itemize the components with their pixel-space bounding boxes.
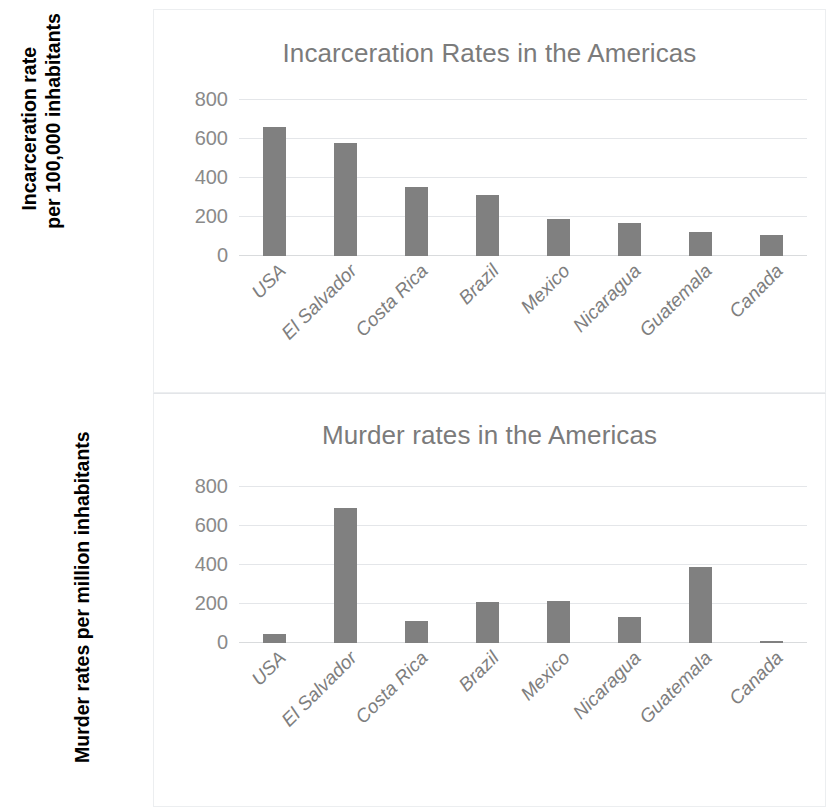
bar-usa <box>263 127 286 256</box>
bar-el-salvador <box>334 143 357 256</box>
y-axis-tick-400: 400 <box>195 166 228 189</box>
y-axis-tick-600: 600 <box>195 514 228 537</box>
bar-nicaragua <box>618 223 641 256</box>
y-axis-tick-0: 0 <box>217 631 228 654</box>
bar-slot <box>594 100 665 256</box>
bar-nicaragua <box>618 617 641 643</box>
murder-bars <box>239 487 807 643</box>
bar-slot <box>452 487 523 643</box>
incarceration-plot-area: 8006004002000 <box>239 100 807 256</box>
incarceration-chart-panel: Incarceration Rates in the Americas 8006… <box>153 9 826 393</box>
bar-guatemala <box>689 232 712 256</box>
y-axis-tick-200: 200 <box>195 205 228 228</box>
murder-category-labels: USAEl SalvadorCosta RicaBrazilMexicoNica… <box>239 647 807 777</box>
y-axis-tick-800: 800 <box>195 88 228 111</box>
bar-guatemala <box>689 567 712 643</box>
y-axis-tick-800: 800 <box>195 475 228 498</box>
x-axis-label-mexico: Mexico <box>516 647 574 705</box>
murder-plot-area: 8006004002000 <box>239 487 807 643</box>
bar-costa-rica <box>405 187 428 256</box>
y-axis-tick-200: 200 <box>195 592 228 615</box>
bar-slot <box>665 487 736 643</box>
x-axis-label-canada: Canada <box>724 260 787 323</box>
murder-chart-title: Murder rates in the Americas <box>154 420 825 451</box>
x-axis-label-usa: USA <box>247 260 290 303</box>
bar-brazil <box>476 602 499 643</box>
bar-slot <box>523 487 594 643</box>
bar-canada <box>760 235 783 256</box>
bar-slot <box>310 100 381 256</box>
x-axis-label-guatemala: Guatemala <box>635 647 716 728</box>
x-axis-label-el-salvador: El Salvador <box>277 647 361 731</box>
incarceration-chart-title: Incarceration Rates in the Americas <box>154 38 825 69</box>
x-axis-label-nicaragua: Nicaragua <box>568 647 645 724</box>
x-axis-label-brazil: Brazil <box>454 647 503 696</box>
bar-mexico <box>547 219 570 256</box>
bar-el-salvador <box>334 508 357 643</box>
bar-mexico <box>547 601 570 643</box>
bar-slot <box>381 487 452 643</box>
murder-axis-caption: Murder rates per million inhabitants <box>71 433 95 763</box>
bar-canada <box>760 641 783 643</box>
bar-slot <box>239 487 310 643</box>
x-axis-label-mexico: Mexico <box>516 260 574 318</box>
bar-usa <box>263 634 286 643</box>
y-axis-tick-600: 600 <box>195 127 228 150</box>
incarceration-axis-caption: Incarceration rate per 100,000 inhabitan… <box>18 29 66 229</box>
bar-costa-rica <box>405 621 428 643</box>
bar-slot <box>665 100 736 256</box>
bar-slot <box>523 100 594 256</box>
x-axis-label-usa: USA <box>247 647 290 690</box>
y-axis-tick-0: 0 <box>217 244 228 267</box>
x-axis-label-nicaragua: Nicaragua <box>568 260 645 337</box>
x-axis-label-el-salvador: El Salvador <box>277 260 361 344</box>
bar-slot <box>736 100 807 256</box>
bar-slot <box>381 100 452 256</box>
x-axis-label-costa-rica: Costa Rica <box>351 260 432 341</box>
bar-slot <box>310 487 381 643</box>
bar-slot <box>452 100 523 256</box>
bar-brazil <box>476 195 499 256</box>
bar-slot <box>594 487 665 643</box>
incarceration-category-labels: USAEl SalvadorCosta RicaBrazilMexicoNica… <box>239 260 807 380</box>
x-axis-label-costa-rica: Costa Rica <box>351 647 432 728</box>
incarceration-bars <box>239 100 807 256</box>
x-axis-label-guatemala: Guatemala <box>635 260 716 341</box>
y-axis-tick-400: 400 <box>195 553 228 576</box>
murder-chart-panel: Murder rates in the Americas 80060040020… <box>153 393 826 807</box>
bar-slot <box>239 100 310 256</box>
x-axis-label-canada: Canada <box>724 647 787 710</box>
bar-slot <box>736 487 807 643</box>
x-axis-label-brazil: Brazil <box>454 260 503 309</box>
